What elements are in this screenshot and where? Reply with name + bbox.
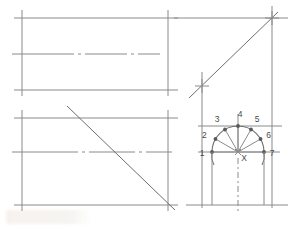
semicircle-point-3 [223, 128, 227, 132]
semicircle-point-label-6: 6 [266, 130, 271, 140]
drawing-canvas: 1234567X [0, 0, 292, 229]
semicircle-point-5 [249, 128, 253, 132]
semicircle-point-4 [236, 124, 240, 128]
semicircle-group [186, 114, 288, 211]
semicircle-point-label-1: 1 [200, 148, 205, 158]
side-view-group [174, 6, 288, 208]
point-label-group: 1234567X [200, 109, 275, 163]
drawing-sheet: 1234567X [0, 0, 292, 229]
semicircle-point-label-7: 7 [270, 148, 275, 158]
semicircle-point-label-2: 2 [202, 130, 207, 140]
semicircle-point-label-4: 4 [238, 109, 243, 119]
semicircle-point-2 [214, 137, 218, 141]
semicircle-point-label-5: 5 [255, 114, 260, 124]
semicircle-point-6 [259, 137, 263, 141]
front-view-diagonal [67, 106, 175, 210]
front-view-group [12, 106, 190, 211]
center-mark-label: X [241, 153, 247, 163]
semicircle-point-label-3: 3 [215, 114, 220, 124]
top-view-group [12, 10, 178, 96]
